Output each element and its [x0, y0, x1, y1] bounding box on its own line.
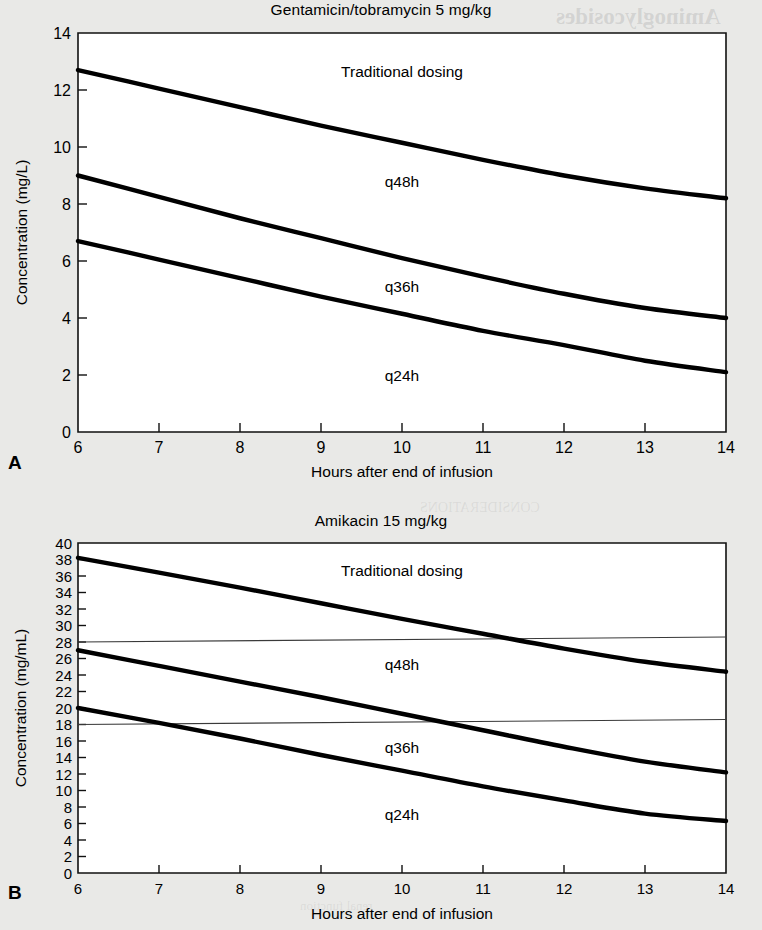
- curve-label-q48h: q48h: [385, 173, 419, 190]
- y-axis-tick-label: 4: [64, 832, 72, 849]
- x-axis-tick-label: 13: [636, 439, 654, 456]
- x-axis-tick-label: 11: [475, 880, 491, 897]
- y-axis-tick-label: 12: [55, 766, 72, 783]
- y-axis-tick-label: 22: [55, 683, 72, 700]
- x-axis-tick-label: 12: [556, 880, 573, 897]
- y-axis-tick-label: 32: [55, 601, 72, 618]
- y-axis-tick-label: 2: [62, 367, 71, 384]
- y-axis-title: Concentration (mg/mL): [12, 629, 29, 788]
- x-axis-tick-label: 10: [394, 880, 411, 897]
- curve-label-q36h: q36h: [385, 739, 419, 756]
- x-axis-tick-label: 8: [236, 439, 245, 456]
- y-axis-tick-label: 28: [55, 634, 72, 651]
- y-axis-tick-label: 16: [55, 733, 72, 750]
- y-axis-tick-label: 8: [62, 196, 71, 213]
- x-axis-tick-label: 14: [717, 439, 735, 456]
- curve-label-q24h: q24h: [385, 367, 419, 384]
- curve-label-traditional-dosing: Traditional dosing: [341, 562, 463, 579]
- y-axis-tick-label: 34: [55, 584, 72, 601]
- chart-b-plot: 0246810121416182022242628303234363840678…: [0, 490, 762, 930]
- x-axis-tick-label: 10: [393, 439, 411, 456]
- y-axis-tick-label: 20: [55, 700, 72, 717]
- figure-b: Amikacin 15 mg/kg B 02468101214161820222…: [0, 490, 762, 930]
- y-axis-tick-label: 6: [62, 253, 71, 270]
- y-axis-tick-label: 0: [64, 865, 72, 882]
- x-axis-tick-label: 7: [155, 880, 163, 897]
- x-axis-tick-label: 7: [155, 439, 164, 456]
- curve-label-q24h: q24h: [385, 806, 419, 823]
- y-axis-tick-label: 40: [55, 535, 72, 552]
- x-axis-tick-label: 12: [555, 439, 573, 456]
- y-axis-tick-label: 36: [55, 568, 72, 585]
- x-axis-tick-label: 9: [317, 880, 325, 897]
- x-axis-tick-label: 11: [475, 439, 492, 456]
- x-axis-title: Hours after end of infusion: [311, 463, 493, 480]
- x-axis-tick-label: 8: [236, 880, 244, 897]
- y-axis-tick-label: 10: [55, 782, 72, 799]
- x-axis-tick-label: 6: [74, 880, 82, 897]
- figure-a: Gentamicin/tobramycin 5 mg/kg A 02468101…: [0, 0, 762, 485]
- y-axis-tick-label: 18: [55, 716, 72, 733]
- chart-a-plot: 0246810121467891011121314Concentration (…: [0, 0, 762, 485]
- x-axis-tick-label: 14: [718, 880, 735, 897]
- y-axis-tick-label: 24: [55, 667, 72, 684]
- y-axis-tick-label: 4: [62, 310, 71, 327]
- y-axis-tick-label: 6: [64, 815, 72, 832]
- x-axis-title: Hours after end of infusion: [311, 905, 493, 922]
- curve-label-traditional-dosing: Traditional dosing: [341, 63, 463, 80]
- y-axis-tick-label: 12: [53, 82, 71, 99]
- x-axis-tick-label: 6: [74, 439, 83, 456]
- y-axis-tick-label: 2: [64, 848, 72, 865]
- y-axis-tick-label: 38: [55, 551, 72, 568]
- y-axis-tick-label: 8: [64, 799, 72, 816]
- x-axis-tick-label: 13: [637, 880, 654, 897]
- plot-area-background: [78, 543, 726, 873]
- y-axis-tick-label: 0: [62, 424, 71, 441]
- y-axis-tick-label: 14: [53, 25, 71, 42]
- y-axis-tick-label: 14: [55, 749, 72, 766]
- x-axis-tick-label: 9: [317, 439, 326, 456]
- y-axis-tick-label: 26: [55, 650, 72, 667]
- y-axis-title: Concentration (mg/L): [13, 160, 30, 306]
- curve-label-q36h: q36h: [385, 278, 419, 295]
- y-axis-tick-label: 10: [53, 139, 71, 156]
- curve-label-q48h: q48h: [385, 656, 419, 673]
- y-axis-tick-label: 30: [55, 617, 72, 634]
